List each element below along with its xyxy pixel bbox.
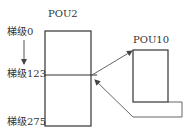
rung-label-123: 梯级123 bbox=[7, 69, 46, 79]
pou2-label: POU2 bbox=[48, 9, 78, 19]
rung-label-0: 梯级0 bbox=[7, 27, 33, 37]
return-path bbox=[95, 80, 182, 117]
call-arrow bbox=[92, 51, 132, 75]
pou10-label: POU10 bbox=[133, 35, 169, 45]
rung-label-275: 梯级275 bbox=[7, 117, 46, 127]
pou10-box bbox=[133, 50, 168, 102]
pou2-box bbox=[45, 31, 91, 126]
